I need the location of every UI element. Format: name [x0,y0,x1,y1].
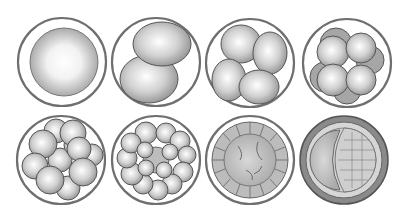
stage-16-cell [17,116,105,204]
stage-4-cell [206,19,294,107]
stage-2-cell [112,18,200,106]
stage-32-cell [112,116,200,204]
stage-early-blastula [206,116,294,204]
embryo-stages-illustration [0,0,407,223]
stage-blastocyst [300,116,388,204]
stage-8-cell [303,19,391,107]
stage-zygote [18,18,106,106]
